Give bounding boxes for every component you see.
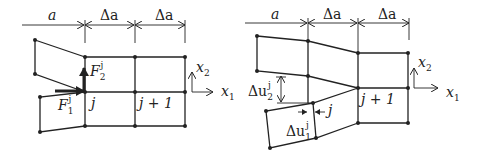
right-figure: a Δa Δa: [245, 6, 460, 150]
x1-axis-label: x1: [446, 84, 460, 103]
x2-axis-label: x2: [418, 54, 432, 73]
left-figure: a Δa Δa: [22, 7, 235, 134]
force-f1-label: F1j: [57, 94, 73, 116]
coordinate-axes: x2 x1: [414, 54, 460, 103]
force-arrows: F1j F2j: [55, 60, 105, 116]
force-f2-label: F2j: [89, 60, 105, 82]
dim-delta-a-label-1: Δa: [100, 7, 118, 23]
x2-axis-label: x2: [196, 59, 210, 78]
node-j-plus-1-label: j + 1: [358, 91, 395, 107]
node-j-label: j: [325, 102, 333, 118]
delta-u1-label: Δu1j: [286, 120, 311, 142]
crack-mesh-diagram: a Δa Δa: [0, 0, 481, 162]
dim-a-label: a: [271, 6, 279, 22]
node-j-plus-1-label: j + 1: [136, 95, 173, 111]
x1-axis-label: x1: [221, 83, 235, 102]
coordinate-axes: x2 x1: [192, 59, 235, 102]
nodes: [33, 38, 187, 134]
dim-delta-a-label-1: Δa: [323, 6, 341, 22]
dimension-line: a Δa Δa: [22, 7, 185, 43]
delta-u2-dimension: Δu2j: [248, 77, 286, 102]
dim-a-label: a: [48, 7, 56, 23]
delta-u2-label: Δu2j: [248, 80, 273, 102]
dim-delta-a-label-2: Δa: [378, 6, 396, 22]
mesh: [35, 40, 185, 132]
dim-delta-a-label-2: Δa: [155, 7, 173, 23]
node-j-label: j: [88, 95, 96, 111]
